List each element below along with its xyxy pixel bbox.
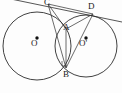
label-point-b: B <box>63 70 69 79</box>
tangent-line <box>6 0 122 22</box>
geometry-canvas <box>0 0 122 93</box>
label-center-o: O <box>31 39 38 48</box>
segment-cb <box>48 4 66 68</box>
label-point-c: C <box>44 0 50 7</box>
geometry-figure: C D A B O O' <box>0 0 122 93</box>
label-point-a: A <box>63 23 70 32</box>
label-point-d: D <box>88 2 95 11</box>
segment-cd <box>48 4 93 14</box>
label-center-o-prime: O' <box>79 39 87 48</box>
